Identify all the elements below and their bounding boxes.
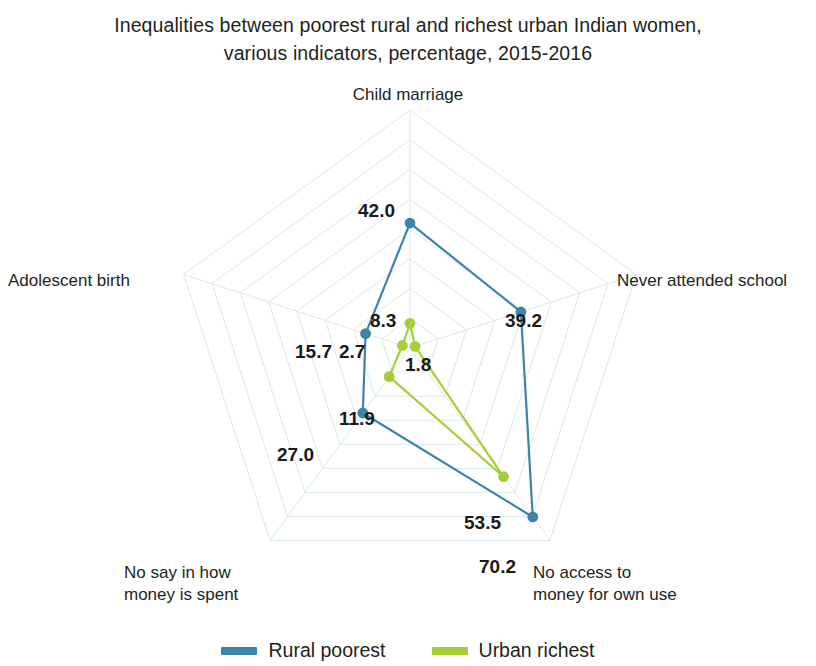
- value-label-rural-adolescent: 15.7: [295, 341, 332, 363]
- radar-data-point[interactable]: [405, 318, 416, 329]
- value-label-rural-child-marriage: 42.0: [358, 200, 395, 222]
- value-label-rural-no-say: 27.0: [277, 444, 314, 466]
- legend-label-rural-poorest: Rural poorest: [268, 639, 385, 662]
- axis-label-never-attended-school: Never attended school: [617, 270, 787, 292]
- radar-data-point[interactable]: [498, 471, 509, 482]
- axis-label-adolescent-birth: Adolescent birth: [8, 270, 130, 292]
- axis-label-no-say-money: No say in how money is spent: [124, 562, 238, 606]
- radar-data-point[interactable]: [384, 371, 395, 382]
- legend-label-urban-richest: Urban richest: [479, 639, 595, 662]
- legend-swatch-rural-poorest: [221, 647, 257, 655]
- value-label-urban-adolescent: 2.7: [339, 341, 365, 363]
- radar-chart-figure: Inequalities between poorest rural and r…: [0, 0, 816, 666]
- radar-data-point[interactable]: [405, 218, 416, 229]
- legend-item-rural-poorest[interactable]: Rural poorest: [221, 639, 385, 662]
- axis-label-child-marriage: Child marriage: [0, 84, 816, 106]
- value-label-rural-never-school: 39.2: [505, 310, 542, 332]
- legend-swatch-urban-richest: [432, 647, 468, 655]
- value-label-urban-never-school: 1.8: [405, 354, 431, 376]
- radar-data-point[interactable]: [397, 340, 408, 351]
- axis-label-no-access-money: No access to money for own use: [533, 562, 677, 606]
- radar-data-point[interactable]: [527, 512, 538, 523]
- legend-item-urban-richest[interactable]: Urban richest: [432, 639, 595, 662]
- radar-data-point[interactable]: [410, 341, 421, 352]
- value-label-rural-no-access: 70.2: [479, 556, 516, 578]
- value-label-urban-no-access: 53.5: [464, 512, 501, 534]
- chart-legend: Rural poorest Urban richest: [0, 639, 816, 662]
- value-label-urban-child-marriage: 8.3: [370, 310, 396, 332]
- radar-series-points: [357, 218, 538, 523]
- value-label-urban-no-say: 11.9: [339, 408, 375, 430]
